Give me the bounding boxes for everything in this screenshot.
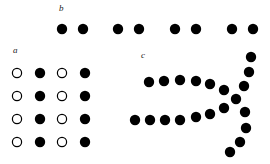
panel-c-dots (130, 52, 256, 157)
filled-dot (205, 79, 215, 89)
filled-dot (219, 103, 229, 113)
filled-dot (134, 24, 144, 34)
open-dot (12, 137, 21, 146)
filled-dot (240, 107, 250, 117)
filled-dot (130, 115, 140, 125)
open-dot (57, 91, 66, 100)
filled-dot (144, 77, 154, 87)
filled-dot (35, 91, 45, 101)
filled-dot (246, 52, 256, 62)
filled-dot (80, 137, 90, 147)
filled-dot (35, 68, 45, 78)
open-dot (12, 114, 21, 123)
filled-dot (241, 123, 251, 133)
filled-dot (113, 24, 123, 34)
filled-dot (244, 67, 254, 77)
filled-dot (227, 24, 237, 34)
filled-dot (239, 81, 249, 91)
filled-dot (159, 76, 169, 86)
open-dot (57, 137, 66, 146)
filled-dot (175, 115, 185, 125)
dot-pattern-figure (0, 0, 270, 164)
figure-canvas: a b c (0, 0, 270, 164)
filled-dot (191, 112, 201, 122)
filled-dot (35, 137, 45, 147)
open-dot (57, 68, 66, 77)
panel-b-dots (57, 24, 258, 34)
filled-dot (248, 24, 258, 34)
filled-dot (57, 24, 67, 34)
filled-dot (145, 115, 155, 125)
filled-dot (219, 85, 229, 95)
filled-dot (35, 114, 45, 124)
filled-dot (205, 109, 215, 119)
filled-dot (175, 75, 185, 85)
filled-dot (235, 137, 245, 147)
filled-dot (80, 68, 90, 78)
filled-dot (80, 91, 90, 101)
open-dot (57, 114, 66, 123)
filled-dot (80, 114, 90, 124)
filled-dot (231, 94, 241, 104)
panel-a-dots (12, 68, 90, 147)
filled-dot (170, 24, 180, 34)
filled-dot (160, 115, 170, 125)
open-dot (12, 68, 21, 77)
open-dot (12, 91, 21, 100)
filled-dot (191, 76, 201, 86)
filled-dot (225, 147, 235, 157)
filled-dot (78, 24, 88, 34)
filled-dot (191, 24, 201, 34)
